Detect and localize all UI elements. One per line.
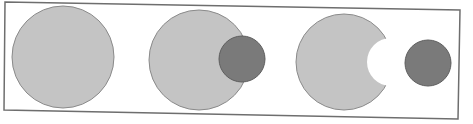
circle-subtraction-diagram	[0, 0, 473, 124]
large-circle-subtracted	[296, 14, 392, 110]
small-circle-overlap	[219, 36, 265, 82]
large-circle-whole	[12, 6, 114, 108]
small-circle-separated	[405, 40, 451, 86]
